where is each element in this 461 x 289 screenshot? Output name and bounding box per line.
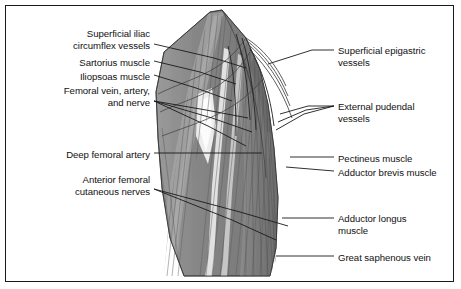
label-deep-femoral-artery: Deep femoral artery [18,149,150,161]
label-great-saphenous-vein: Great saphenous vein [338,252,456,264]
label-external-pudendal-vessels: External pudendal vessels [338,101,450,124]
label-anterior-femoral-cutaneous-nerves: Anterior femoral cutaneous nerves [18,174,150,197]
label-pectineus-muscle: Pectineus muscle [338,153,450,165]
label-iliopsoas-muscle: Iliopsoas muscle [18,71,150,83]
anatomy-figure: Superficial iliac circumflex vesselsSart… [0,0,461,289]
anterior-thigh-dissection-illustration [150,8,330,280]
label-sartorius-muscle: Sartorius muscle [18,57,150,69]
label-femoral-vein-artery-and-nerve: Femoral vein, artery, and nerve [18,85,150,108]
label-superficial-iliac-circumflex-vessels: Superficial iliac circumflex vessels [18,28,150,51]
label-superficial-epigastric-vessels: Superficial epigastric vessels [338,45,450,68]
label-adductor-longus-muscle: Adductor longus muscle [338,213,450,236]
label-adductor-brevis-muscle: Adductor brevis muscle [338,167,456,179]
